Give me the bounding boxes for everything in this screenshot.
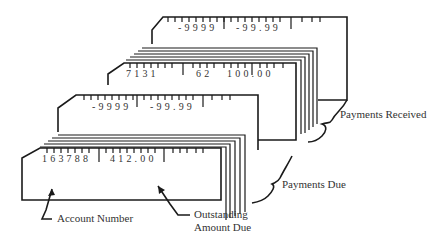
card-file-diagram: -9999 -99.99 7131 62 100.00 xyxy=(0,0,441,247)
field-account-number: 7131 xyxy=(126,68,159,79)
label-outstanding-line2: Amount Due xyxy=(194,221,251,233)
label-payments-due: Payments Due xyxy=(282,178,346,190)
field-account-format: -9999 xyxy=(92,101,131,112)
label-payments-received: Payments Received xyxy=(340,108,427,120)
field-account-format: -9999 xyxy=(178,22,217,33)
field-amount-format: -99.99 xyxy=(150,101,195,112)
field-outstanding-amount: 412.00 xyxy=(110,153,157,164)
field-amount: 100.00 xyxy=(227,68,274,79)
label-outstanding-line1: Outstanding xyxy=(194,208,248,220)
field-amount-format: -99.99 xyxy=(236,22,281,33)
arrow-head-icon xyxy=(48,189,55,196)
callout-account-number: Account Number xyxy=(42,189,133,224)
field-account-number: 163788 xyxy=(42,153,91,164)
field-quantity: 62 xyxy=(196,68,212,79)
due-format-card: -9999 -99.99 xyxy=(58,95,258,150)
arrow-head-icon xyxy=(158,186,165,194)
received-format-card: -9999 -99.99 xyxy=(152,17,347,100)
received-data-deck: 7131 62 100.00 xyxy=(108,48,317,140)
brace-payments-received xyxy=(308,100,347,142)
label-account-number: Account Number xyxy=(57,212,133,224)
callout-outstanding-amount: Outstanding Amount Due xyxy=(158,186,251,233)
